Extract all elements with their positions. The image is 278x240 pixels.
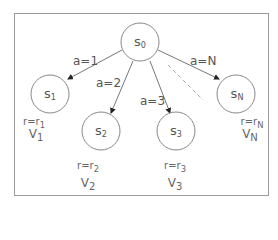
value-sN: VN [242, 128, 258, 144]
action-label-a3: a=3 [140, 95, 165, 107]
value-s2: V2 [81, 177, 96, 193]
node-s3-label: s3 [170, 124, 182, 141]
node-s1-label: s1 [44, 87, 56, 104]
value-s1: V1 [29, 128, 44, 144]
ellipsis-edge [168, 65, 203, 100]
action-label-a1: a=1 [73, 55, 98, 67]
action-label-aN: a=N [190, 55, 216, 67]
node-s0-label: s0 [134, 35, 146, 52]
reward-s2: r=r2 [77, 161, 99, 174]
node-s2-label: s2 [95, 124, 107, 141]
value-s3: V3 [168, 177, 183, 193]
node-sN-label: sN [231, 87, 244, 104]
reward-s3: r=r3 [164, 161, 186, 174]
action-label-a2: a=2 [96, 77, 121, 89]
